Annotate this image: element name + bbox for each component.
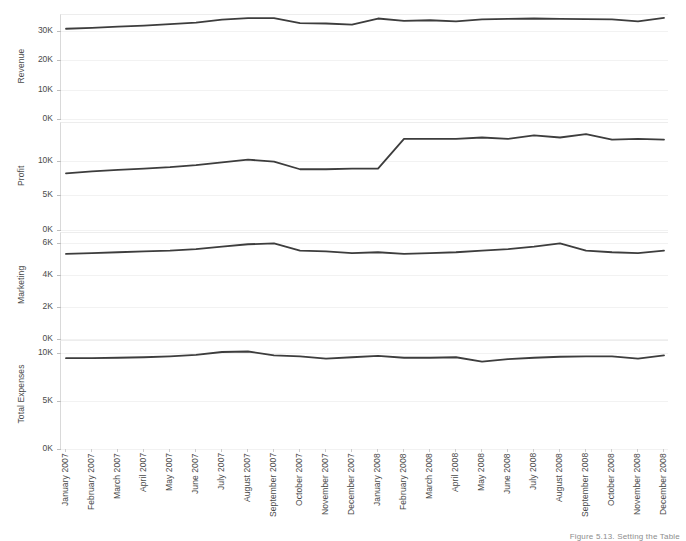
x-tick-mark (91, 449, 92, 452)
x-tick-mark (195, 449, 196, 452)
y-tick-mark (57, 230, 61, 231)
chart-panel-profit: Profit0K5K10K (0, 122, 686, 229)
y-tick-label: 10K (19, 348, 53, 357)
y-tick-label: 5K (19, 396, 53, 405)
x-tick-label: July 2007 (216, 453, 226, 490)
y-gridline (61, 119, 668, 120)
x-tick-mark (585, 449, 586, 452)
y-gridline (61, 230, 668, 231)
y-tick-label: 6K (19, 237, 53, 246)
x-tick-label: April 2007 (138, 453, 148, 492)
x-tick-mark (65, 449, 66, 452)
x-tick-label: August 2008 (554, 453, 564, 502)
x-tick-label: December 2007 (346, 453, 356, 515)
multi-panel-line-chart: Revenue0K10K20K30KProfit0K5K10KMarketing… (0, 0, 686, 541)
x-tick-mark (247, 449, 248, 452)
x-tick-mark (351, 449, 352, 452)
chart-panel-marketing: Marketing0K2K4K6K (0, 232, 686, 338)
x-tick-label: April 2008 (450, 453, 460, 492)
y-tick-label: 0K (19, 444, 53, 453)
series-line-marketing (61, 233, 669, 339)
x-tick-mark (533, 449, 534, 452)
x-tick-mark (455, 449, 456, 452)
x-tick-mark (299, 449, 300, 452)
plot-area (60, 232, 668, 339)
x-tick-label: January 2008 (372, 453, 382, 506)
x-tick-label: June 2007 (190, 453, 200, 494)
series-line-revenue (61, 15, 669, 119)
x-tick-mark (663, 449, 664, 452)
y-tick-label: 30K (19, 26, 53, 35)
series-line-total-expenses (61, 341, 669, 449)
x-tick-label: December 2008 (658, 453, 668, 515)
y-tick-label: 10K (19, 84, 53, 93)
y-tick-label: 0K (19, 114, 53, 123)
chart-panel-revenue: Revenue0K10K20K30K (0, 14, 686, 118)
x-tick-mark (403, 449, 404, 452)
x-tick-label: June 2008 (502, 453, 512, 494)
x-tick-label: February 2008 (398, 453, 408, 510)
x-tick-mark (559, 449, 560, 452)
x-tick-label: November 2007 (320, 453, 330, 515)
x-tick-label: October 2007 (294, 453, 304, 506)
x-tick-label: August 2007 (242, 453, 252, 502)
x-tick-label: October 2008 (606, 453, 616, 506)
x-tick-label: September 2007 (268, 453, 278, 517)
y-tick-label: 10K (19, 156, 53, 165)
y-tick-label: 2K (19, 302, 53, 311)
x-tick-mark (507, 449, 508, 452)
plot-area (60, 122, 668, 230)
x-tick-mark (429, 449, 430, 452)
y-tick-label: 4K (19, 270, 53, 279)
x-tick-label: November 2008 (632, 453, 642, 515)
x-tick-mark (377, 449, 378, 452)
x-tick-mark (117, 449, 118, 452)
plot-area (60, 14, 668, 119)
y-tick-mark (57, 119, 61, 120)
x-tick-mark (637, 449, 638, 452)
figure-caption: Figure 5.13. Setting the Table (570, 532, 680, 541)
x-tick-label: March 2008 (424, 453, 434, 499)
chart-panel-total-expenses: Total Expenses0K5K10K (0, 340, 686, 448)
x-tick-mark (611, 449, 612, 452)
x-tick-mark (325, 449, 326, 452)
plot-area (60, 340, 668, 449)
series-line-profit (61, 123, 669, 230)
shared-x-axis: January 2007February 2007March 2007April… (60, 449, 668, 541)
y-tick-label: 20K (19, 55, 53, 64)
x-tick-mark (273, 449, 274, 452)
x-tick-mark (481, 449, 482, 452)
y-tick-label: 5K (19, 190, 53, 199)
x-tick-mark (143, 449, 144, 452)
x-tick-mark (221, 449, 222, 452)
x-tick-label: January 2007 (60, 453, 70, 506)
x-tick-label: February 2007 (86, 453, 96, 510)
x-tick-label: September 2008 (580, 453, 590, 517)
x-tick-label: March 2007 (112, 453, 122, 499)
x-tick-label: May 2007 (164, 453, 174, 491)
x-tick-label: May 2008 (476, 453, 486, 491)
x-tick-label: July 2008 (528, 453, 538, 490)
x-tick-mark (169, 449, 170, 452)
